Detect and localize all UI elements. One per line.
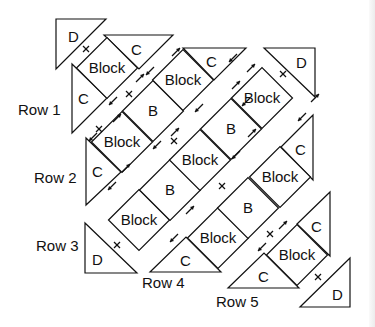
- x-mark-icon: [126, 91, 132, 97]
- x-mark-icon: [267, 231, 273, 237]
- arrow-ne-icon: [186, 206, 194, 214]
- arrow-sw-icon: [146, 67, 154, 75]
- arrow-sw-icon: [153, 141, 161, 149]
- x-mark-icon: [280, 71, 286, 77]
- blocks: BlockBlockBBlockBlockBBlockBBlockBlockBB…: [77, 38, 328, 286]
- piece-label: C: [311, 218, 322, 235]
- piece-label: D: [68, 28, 79, 45]
- piece-label: C: [131, 41, 142, 58]
- piece-label: B: [226, 120, 236, 137]
- row-label: Row 5: [216, 293, 259, 310]
- arrow-sw-icon: [298, 113, 306, 121]
- piece-label: Block: [121, 211, 158, 228]
- piece-label: Block: [200, 229, 237, 246]
- x-mark-icon: [315, 274, 321, 280]
- piece-label: D: [92, 251, 103, 268]
- piece-label: Block: [244, 89, 281, 106]
- piece-label: C: [295, 141, 306, 158]
- piece-label: Block: [165, 71, 202, 88]
- diagram-canvas: DCCCCDDCCCCD BlockBlockBBlockBlockBBlock…: [0, 0, 375, 327]
- x-mark-icon: [96, 126, 102, 132]
- piece-label: C: [258, 268, 269, 285]
- piece-label: D: [332, 286, 343, 303]
- row-label: Row 4: [142, 274, 185, 291]
- arrow-ne-icon: [279, 221, 287, 229]
- arrow-ne-icon: [136, 74, 144, 82]
- piece-label: Block: [262, 168, 299, 185]
- piece-label: B: [148, 102, 158, 119]
- row-label: Row 2: [34, 169, 77, 186]
- piece-label: D: [296, 54, 307, 71]
- arrow-sw-icon: [195, 104, 203, 112]
- piece-label: C: [78, 90, 89, 107]
- piece-label: B: [165, 181, 175, 198]
- piece-label: C: [206, 53, 217, 70]
- arrow-sw-icon: [109, 97, 117, 105]
- row-label: Row 3: [36, 237, 79, 254]
- piece-label: Block: [182, 151, 219, 168]
- quilt-assembly-diagram: DCCCCDDCCCCD BlockBlockBBlockBlockBBlock…: [0, 0, 375, 327]
- row-label: Row 1: [18, 101, 61, 118]
- page-edge-shadow: [369, 0, 375, 327]
- piece-label: Block: [104, 133, 141, 150]
- x-mark-icon: [171, 138, 177, 144]
- arrow-ne-icon: [232, 81, 240, 89]
- piece-label: Block: [279, 246, 316, 263]
- x-mark-icon: [219, 183, 225, 189]
- arrow-ne-icon: [247, 64, 255, 72]
- x-mark-icon: [114, 242, 120, 248]
- piece-label: C: [92, 163, 103, 180]
- piece-label: Block: [89, 59, 126, 76]
- arrow-sw-icon: [258, 243, 266, 251]
- x-mark-icon: [83, 46, 89, 52]
- arrow-sw-icon: [170, 234, 178, 242]
- arrow-ne-icon: [171, 128, 179, 136]
- piece-label: C: [180, 252, 191, 269]
- piece-label: B: [243, 199, 253, 216]
